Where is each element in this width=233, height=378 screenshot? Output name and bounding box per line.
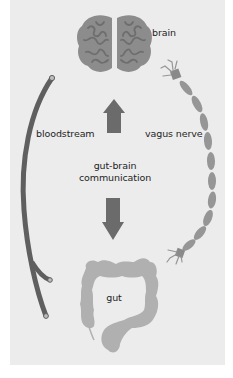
blood-vessel-icon — [23, 75, 54, 318]
brain-label: brain — [152, 27, 176, 38]
vagus-nerve-label: vagus nerve — [145, 128, 203, 139]
bloodstream-label: bloodstream — [36, 128, 95, 139]
arrow-up-icon — [103, 99, 125, 133]
center-label-line1: gut-brain — [94, 160, 137, 171]
center-label-line2: communication — [79, 172, 151, 183]
intestine-icon — [80, 258, 158, 352]
brain-icon — [77, 15, 152, 72]
diagram-art — [0, 0, 233, 378]
arrow-down-icon — [102, 198, 124, 240]
nerve-icon — [161, 60, 217, 264]
gut-label: gut — [106, 292, 121, 303]
